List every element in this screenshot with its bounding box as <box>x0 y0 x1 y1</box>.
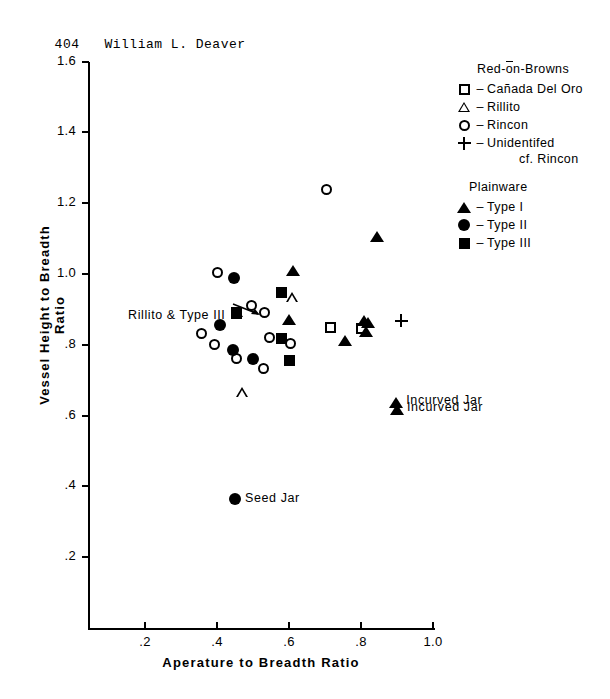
legend-marker <box>455 116 473 134</box>
marker-square-open <box>459 84 470 95</box>
y-tick-label: .8 <box>40 336 76 351</box>
y-tick-label: .6 <box>40 407 76 422</box>
data-point <box>395 314 408 327</box>
data-point <box>321 184 332 195</box>
legend-label: Rillito <box>487 100 520 114</box>
y-axis-label: Vessel Height to Breadth Ratio <box>37 205 67 425</box>
data-point <box>325 322 336 333</box>
marker-circle-open <box>459 120 470 131</box>
y-tick-label: .4 <box>40 477 76 492</box>
data-point-group <box>0 0 610 30</box>
data-point <box>276 333 287 344</box>
data-point <box>285 338 296 349</box>
legend-label: Type III <box>487 236 531 250</box>
y-tick <box>82 202 89 204</box>
legend-marker <box>455 216 473 234</box>
legend-entry[interactable]: –Cañada Del Oro <box>455 80 583 98</box>
chart-legend: Red-on-Browns–Cañada Del Oro–Rillito–Rin… <box>455 62 583 252</box>
rillito-type3-arrow <box>232 300 266 320</box>
data-point <box>338 335 352 346</box>
data-point <box>236 387 248 397</box>
annotation-label: Incurved Jar <box>407 400 483 414</box>
data-point <box>286 265 300 276</box>
annotation-label: Rillito & Type III <box>128 308 225 322</box>
legend-label: Type I <box>487 200 523 214</box>
legend-entry[interactable]: –Rillito <box>455 98 583 116</box>
data-point <box>286 292 298 302</box>
legend-dash: – <box>473 236 487 250</box>
legend-group-title: Red-on-Browns <box>477 62 583 76</box>
legend-marker <box>455 98 473 116</box>
data-point <box>212 267 223 278</box>
marker-square-filled <box>459 238 470 249</box>
y-tick-label: .2 <box>40 548 76 563</box>
y-tick <box>82 344 89 346</box>
x-tick <box>432 622 434 629</box>
y-tick-label: 1.2 <box>40 194 76 209</box>
marker-triangle-filled <box>457 202 471 213</box>
marker-plus <box>458 137 471 150</box>
legend-group-title: Plainware <box>469 180 583 194</box>
legend-entry[interactable]: –Rincon <box>455 116 583 134</box>
y-tick <box>82 556 89 558</box>
legend-entry[interactable]: –Type II <box>455 216 583 234</box>
y-tick-label: 1.4 <box>40 123 76 138</box>
data-point <box>228 272 240 284</box>
y-tick <box>82 485 89 487</box>
data-point <box>359 326 373 337</box>
x-tick <box>360 622 362 629</box>
x-tick-label: .6 <box>269 634 309 649</box>
legend-label: Cañada Del Oro <box>487 82 583 96</box>
y-tick <box>82 415 89 417</box>
data-point <box>276 287 287 298</box>
legend-sublabel: cf. Rincon <box>519 152 583 166</box>
legend-marker <box>455 234 473 252</box>
y-tick <box>82 273 89 275</box>
data-point <box>264 332 275 343</box>
legend-marker <box>455 134 473 152</box>
x-tick-label: 1.0 <box>413 634 453 649</box>
legend-entry[interactable]: –Unidentifed <box>455 134 583 152</box>
data-point <box>258 363 269 374</box>
data-point <box>229 493 241 505</box>
legend-label: Rincon <box>487 118 528 132</box>
data-point <box>196 328 207 339</box>
legend-marker <box>455 198 473 216</box>
legend-entry[interactable]: –Type III <box>455 234 583 252</box>
legend-label: Unidentifed <box>487 136 555 150</box>
x-tick <box>144 622 146 629</box>
legend-dash: – <box>473 136 487 150</box>
legend-entry[interactable]: –Type I <box>455 198 583 216</box>
data-point <box>282 314 296 325</box>
y-tick-label: 1.0 <box>40 265 76 280</box>
legend-marker <box>455 80 473 98</box>
x-tick-label: .8 <box>341 634 381 649</box>
data-point <box>370 231 384 242</box>
legend-dash: – <box>473 218 487 232</box>
x-axis-label: Aperature to Breadth Ratio <box>88 655 434 670</box>
y-axis-line <box>88 62 90 630</box>
x-tick <box>288 622 290 629</box>
x-tick-label: .2 <box>125 634 165 649</box>
y-tick <box>82 61 89 63</box>
legend-dash: – <box>473 82 487 96</box>
legend-dash: – <box>473 100 487 114</box>
y-tick <box>82 131 89 133</box>
x-tick <box>216 622 218 629</box>
marker-triangle-open <box>458 102 470 112</box>
marker-circle-filled <box>458 219 470 231</box>
legend-dash: – <box>473 118 487 132</box>
annotation-label: Seed Jar <box>245 491 300 505</box>
x-axis-line <box>88 628 435 630</box>
data-point <box>247 353 259 365</box>
legend-dash: – <box>473 200 487 214</box>
x-tick-label: .4 <box>197 634 237 649</box>
data-point <box>284 355 295 366</box>
y-tick-label: 1.6 <box>40 53 76 68</box>
data-point <box>209 339 220 350</box>
data-point <box>390 404 404 415</box>
legend-label: Type II <box>487 218 527 232</box>
